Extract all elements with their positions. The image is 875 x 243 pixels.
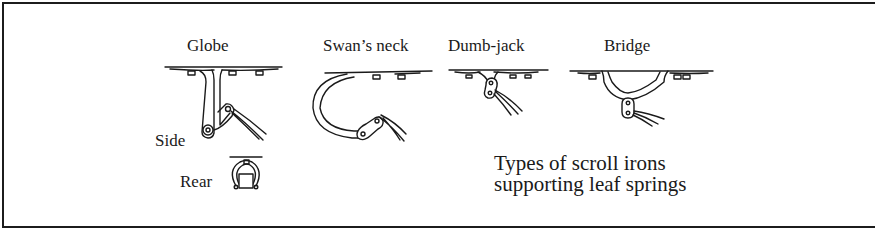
globe-rear-drawing (230, 157, 262, 189)
swans-neck-drawing (313, 71, 432, 141)
bridge-drawing (570, 71, 713, 126)
dumb-jack-drawing (449, 70, 548, 115)
globe-side-drawing (165, 67, 282, 140)
scroll-iron-drawings (0, 0, 875, 243)
